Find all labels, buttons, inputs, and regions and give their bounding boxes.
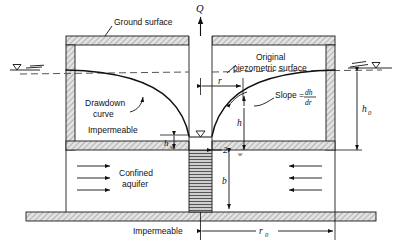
discharge-label: Q (196, 3, 204, 14)
drawdown-curve-label-line1: Drawdown (85, 98, 125, 108)
head-hw-base: h (164, 138, 169, 148)
well-hydraulics-diagram: Q Ground surface Drawdown curve Original… (0, 0, 402, 250)
head-h-label: h (237, 118, 242, 128)
original-piezo-label-line2: piezometric surface (233, 63, 307, 73)
well-diameter-base: 2r (223, 145, 232, 155)
ground-surface-label: Ground surface (114, 17, 173, 27)
slope-label: Slope = (275, 90, 304, 100)
slope-denominator: dr (305, 98, 312, 107)
radius-influence-label: r 0 (256, 223, 278, 238)
impermeable-lower-label: Impermeable (133, 226, 183, 236)
aquifer-thickness-label: b (222, 176, 227, 186)
impermeable-bed-hatch (26, 212, 376, 221)
drawdown-curve-label-line2: curve (93, 109, 114, 119)
head-h0-base: h (362, 104, 367, 114)
slope-numerator: dh (305, 88, 313, 97)
radius-influence-base: r (259, 226, 263, 236)
confined-aquifer-label-line2: aquifer (122, 179, 148, 189)
confined-aquifer-label-line1: Confined (119, 168, 153, 178)
head-hw-subscript: w (170, 143, 175, 150)
radius-r-label: r (218, 76, 222, 86)
original-piezo-label-line1: Original (256, 52, 285, 62)
impermeable-upper-label: Impermeable (88, 125, 138, 135)
well-diameter-subscript: w (238, 150, 243, 157)
well-screen (189, 150, 212, 212)
